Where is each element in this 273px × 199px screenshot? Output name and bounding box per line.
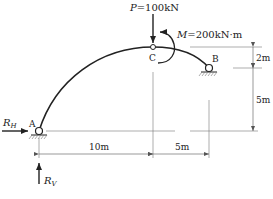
- point-b-label: B: [212, 54, 219, 64]
- hinge-c-icon: [151, 45, 156, 50]
- reaction-v-label: RV: [43, 175, 58, 188]
- dim-2m-label: 2m: [256, 53, 271, 63]
- support-a-icon: [29, 128, 47, 140]
- dim-5m-label: 5m: [175, 142, 190, 152]
- dim-5m-vertical-label: 5m: [256, 95, 271, 105]
- dim-10m-label: 10m: [89, 142, 109, 152]
- reaction-h-label: RH: [2, 117, 18, 130]
- support-b-icon: [199, 65, 217, 77]
- moment-label: M=200kN·m: [176, 29, 243, 40]
- arch-diagram: P=100kN M=200kN·m C B A RH RV 10m 5m 2m …: [0, 0, 273, 199]
- arch-member: [39, 47, 209, 131]
- load-p-label: P=100kN: [129, 2, 179, 13]
- point-a-label: A: [28, 119, 36, 129]
- point-c-label: C: [149, 53, 156, 63]
